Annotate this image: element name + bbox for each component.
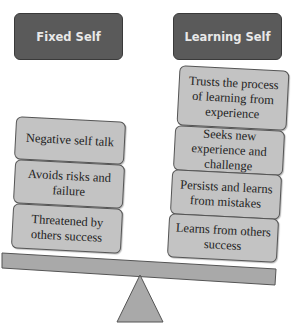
trait-label: Avoids risks and failure: [18, 166, 119, 201]
fixed-trait-negative-self-talk: Negative self talk: [14, 116, 126, 165]
learning-trait-learns-from-others: Learns from others success: [167, 213, 279, 263]
fixed-trait-threatened: Threatened by others success: [11, 203, 123, 254]
trait-label: Seeks new experience and challenge: [178, 125, 280, 175]
trait-label: Threatened by others success: [16, 211, 117, 246]
fixed-self-header: Fixed Self: [14, 13, 123, 60]
learning-self-header: Learning Self: [173, 13, 282, 60]
trait-label: Learns from others success: [172, 220, 273, 255]
learning-trait-seeks-experience: Seeks new experience and challenge: [173, 125, 285, 176]
trait-label: Trusts the process of learning from expe…: [182, 73, 284, 123]
trait-label: Persists and learns from mistakes: [175, 177, 276, 212]
fulcrum-triangle: [117, 275, 163, 322]
trait-label: Negative self talk: [26, 131, 115, 151]
learning-trait-persists: Persists and learns from mistakes: [170, 169, 282, 220]
learning-trait-trusts-process: Trusts the process of learning from expe…: [177, 65, 290, 131]
learning-self-title: Learning Self: [184, 30, 270, 44]
fixed-trait-avoids-risks: Avoids risks and failure: [13, 159, 125, 209]
fixed-self-title: Fixed Self: [36, 30, 100, 44]
